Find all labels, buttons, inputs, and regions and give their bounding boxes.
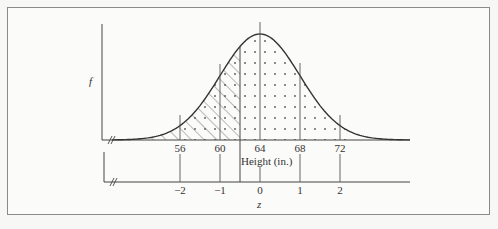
f-axis-label: f [89,75,94,87]
height-tick-label: 68 [295,142,307,154]
z-axis-label: z [256,198,262,210]
height-tick-label: 56 [175,142,187,154]
z-tick-label: −1 [214,184,226,196]
z-tick-label: 0 [257,184,263,196]
z-tick-label: 2 [337,184,343,196]
height-tick-label: 64 [255,142,267,154]
normal-curve-diagram: f 5660646872 Height (in.) −2−1012 z [0,0,498,229]
height-axis-label: Height (in.) [241,155,293,168]
z-tick-label: 1 [297,184,303,196]
height-tick-label: 60 [215,142,227,154]
height-tick-label: 72 [335,142,346,154]
z-tick-label: −2 [174,184,186,196]
hatched-region [140,20,240,140]
